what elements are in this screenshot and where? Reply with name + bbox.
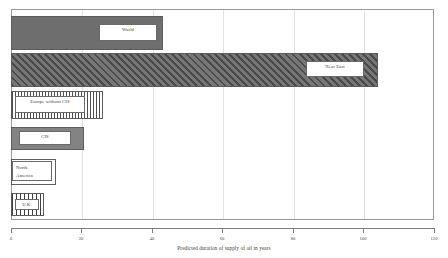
bar-label-europe-without-cis: Europe without CIS (15, 96, 85, 113)
x-tick-label-80: 80 (291, 236, 296, 241)
x-tick-100 (363, 228, 364, 233)
bar-label-uk: U.K. (15, 199, 39, 210)
x-tick-60 (222, 228, 223, 233)
x-tick-label-60: 60 (220, 236, 225, 241)
x-tick-label-20: 20 (79, 236, 84, 241)
bar-label-north-america: North America (12, 161, 52, 181)
x-tick-20 (81, 228, 82, 233)
bar-label-near-east: Near East (306, 61, 364, 77)
bar-label-world: World (99, 24, 157, 41)
x-axis-title: Predicted duration of supply of oil in y… (0, 245, 448, 251)
x-tick-0 (11, 228, 12, 233)
x-tick-label-100: 100 (360, 236, 367, 241)
x-tick-label-0: 0 (10, 236, 12, 241)
bar-label-cis: CIS (19, 131, 71, 145)
x-tick-80 (293, 228, 294, 233)
x-tick-label-120: 120 (431, 236, 438, 241)
x-tick-120 (434, 228, 435, 233)
x-tick-label-40: 40 (150, 236, 155, 241)
bars-layer: World Near East Europe without CIS CIS N… (11, 9, 434, 220)
chart-canvas: World Near East Europe without CIS CIS N… (0, 0, 448, 258)
x-tick-40 (152, 228, 153, 233)
